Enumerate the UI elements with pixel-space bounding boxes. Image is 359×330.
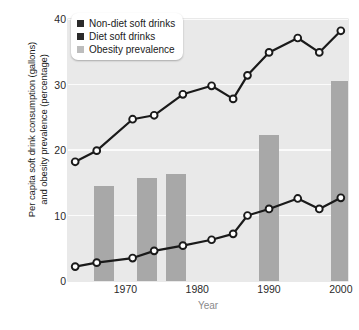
x-tick-label: 2000: [329, 283, 352, 295]
data-point-marker: [316, 49, 323, 56]
x-tick-label: 1980: [186, 283, 209, 295]
data-point-marker: [72, 263, 79, 270]
data-point-marker: [179, 91, 186, 98]
data-point-marker: [230, 230, 237, 237]
legend-swatch-icon: [77, 33, 84, 40]
data-point-marker: [244, 72, 251, 79]
data-point-marker: [337, 194, 344, 201]
x-axis-tick-labels: 1970198019902000: [68, 283, 348, 299]
data-point-marker: [337, 27, 344, 34]
legend-item-1: Diet soft drinks: [77, 30, 175, 43]
x-tick-label: 1970: [114, 283, 137, 295]
data-point-marker: [129, 116, 136, 123]
legend-swatch-icon: [77, 46, 84, 53]
data-point-marker: [208, 236, 215, 243]
data-point-marker: [230, 96, 237, 103]
data-point-marker: [93, 259, 100, 266]
y-tick-label: 20: [44, 144, 66, 156]
line-series: [72, 194, 344, 270]
legend-label: Diet soft drinks: [89, 31, 155, 42]
data-point-marker: [266, 206, 273, 213]
data-point-marker: [294, 35, 301, 42]
legend-item-2: Obesity prevalence: [77, 43, 175, 56]
chart-legend: Non-diet soft drinksDiet soft drinksObes…: [71, 13, 183, 60]
legend-label: Non-diet soft drinks: [89, 18, 175, 29]
y-tick-label: 10: [44, 210, 66, 222]
y-tick-label: 0: [44, 275, 66, 287]
data-point-marker: [129, 255, 136, 262]
data-point-marker: [93, 147, 100, 154]
data-point-marker: [294, 195, 301, 202]
data-point-marker: [244, 212, 251, 219]
data-point-marker: [72, 158, 79, 165]
data-point-marker: [151, 112, 158, 119]
data-point-marker: [266, 49, 273, 56]
y-axis-tick-labels: 010203040: [40, 0, 66, 330]
legend-item-0: Non-diet soft drinks: [77, 17, 175, 30]
x-axis-title: Year: [68, 300, 348, 311]
legend-label: Obesity prevalence: [89, 44, 175, 55]
data-point-marker: [179, 242, 186, 249]
chart-figure: Per capita soft drink consumption (gallo…: [0, 0, 359, 330]
series-polyline: [75, 198, 341, 267]
legend-swatch-icon: [77, 20, 84, 27]
x-tick-label: 1990: [257, 283, 280, 295]
y-tick-label: 40: [44, 13, 66, 25]
y-tick-label: 30: [44, 79, 66, 91]
data-point-marker: [151, 247, 158, 254]
data-point-marker: [208, 82, 215, 89]
data-point-marker: [316, 206, 323, 213]
